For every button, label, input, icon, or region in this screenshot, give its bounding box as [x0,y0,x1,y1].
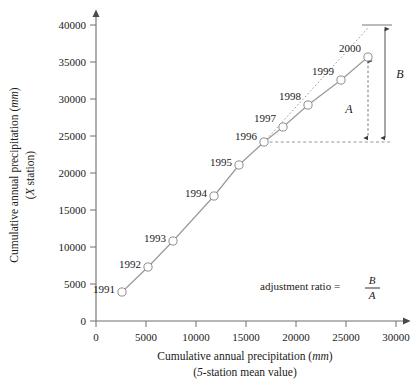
point-label-1999: 1999 [312,65,335,77]
y-axis-title-main: Cumulative annual precipitation (mm) [8,87,21,263]
data-point-marker[interactable] [279,123,287,131]
point-label-1993: 1993 [144,232,167,244]
point-label-1991: 1991 [93,283,115,295]
x-tick-label-5000: 5000 [135,331,158,343]
y-tick-label-25000: 25000 [59,130,87,142]
y-tick-label-15000: 15000 [59,204,87,216]
axes [96,16,404,321]
point-label-1997: 1997 [254,112,277,124]
y-axis-sub-close: station) [24,151,37,189]
x-tick-label-30000: 30000 [382,331,410,343]
data-point-marker[interactable] [364,53,372,61]
y-tick-label-35000: 35000 [59,56,87,68]
y-tick-label-10000: 10000 [59,241,87,253]
y-axis-ticks: 0 5000 10000 15000 20000 25000 30000 350… [59,19,97,327]
point-label-1998: 1998 [279,90,302,102]
x-axis-title: Cumulative annual precipitation (mm) (5-… [157,350,333,379]
y-axis-unit: mm [8,91,20,108]
point-label-1995: 1995 [210,156,233,168]
y-axis-title-sub: (X station) [24,151,37,199]
y-tick-label-20000: 20000 [59,167,87,179]
x-axis-sub-close: -station mean value) [203,366,297,379]
x-axis-title-sub: (5-station mean value) [193,366,297,379]
point-label-1996: 1996 [235,130,258,142]
chart-svg: 0 5000 10000 15000 20000 25000 30000 350… [0,0,414,385]
segment-a-measure: A [344,61,368,138]
ratio-denominator: A [368,289,376,301]
y-axis-title: Cumulative annual precipitation (mm) (X … [8,87,37,263]
ratio-numerator: B [369,274,376,286]
data-point-marker[interactable] [304,101,312,109]
x-axis-title-text: Cumulative annual precipitation ( [157,350,312,363]
y-tick-label-0: 0 [81,315,87,327]
data-point-marker[interactable] [235,161,243,169]
x-axis-unit: mm [312,350,329,362]
y-axis-title-close: ) [8,87,21,91]
x-tick-label-15000: 15000 [232,331,260,343]
point-label-2000: 2000 [339,42,362,54]
data-point-marker[interactable] [260,138,268,146]
x-axis-title-main: Cumulative annual precipitation (mm) [157,350,333,363]
series-polyline [122,57,368,292]
y-axis-title-text: Cumulative annual precipitation ( [8,108,21,263]
data-point-marker[interactable] [118,288,126,296]
data-point-marker[interactable] [337,76,345,84]
x-tick-label-10000: 10000 [182,331,210,343]
data-point-markers [118,53,372,296]
segment-b-label: B [396,67,404,81]
point-label-1992: 1992 [119,258,141,270]
adjustment-ratio-annotation: adjustment ratio = B A [260,274,380,301]
double-mass-curve-chart: 0 5000 10000 15000 20000 25000 30000 350… [0,0,414,385]
x-tick-label-25000: 25000 [332,331,360,343]
data-point-marker[interactable] [169,237,177,245]
data-point-marker[interactable] [144,263,152,271]
data-series-line [122,57,368,292]
x-tick-label-20000: 20000 [282,331,310,343]
segment-a-label: A [344,102,353,116]
data-point-marker[interactable] [210,192,218,200]
point-label-1994: 1994 [185,187,208,199]
segment-b-measure: B [385,29,404,138]
x-tick-label-0: 0 [93,331,99,343]
y-tick-label-5000: 5000 [64,278,87,290]
adjustment-ratio-text: adjustment ratio = [260,280,340,292]
x-axis-title-close: ) [329,350,333,363]
y-tick-label-40000: 40000 [59,19,87,31]
x-axis-ticks: 0 5000 10000 15000 20000 25000 30000 [93,321,410,343]
y-tick-label-30000: 30000 [59,93,87,105]
